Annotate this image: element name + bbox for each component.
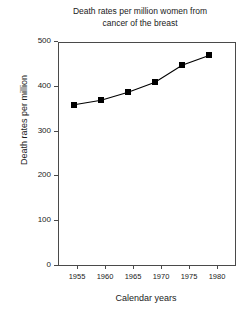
x-axis-label: Calendar years (46, 293, 246, 303)
x-tick-label: 1955 (63, 272, 91, 281)
data-point-1980 (206, 52, 212, 58)
plot-area-frame (58, 42, 236, 266)
x-tick-label: 1975 (175, 272, 203, 281)
y-tick-label: 500 (38, 36, 51, 45)
data-point-1960 (98, 97, 104, 103)
data-point-1955 (71, 102, 77, 108)
y-tick-label: 200 (38, 170, 51, 179)
y-tick-label: 100 (38, 215, 51, 224)
chart-title-line-1: Death rates per million women from (40, 5, 240, 17)
x-tick-mark (189, 266, 190, 269)
x-tick-label: 1960 (91, 272, 119, 281)
data-point-1975 (179, 62, 185, 68)
data-point-1970 (152, 79, 158, 85)
x-tick-label: 1965 (119, 272, 147, 281)
chart-title-line-2: cancer of the breast (40, 17, 240, 29)
x-tick-mark (217, 266, 218, 269)
data-point-1965 (125, 89, 131, 95)
x-tick-mark (133, 266, 134, 269)
x-tick-label: 1970 (147, 272, 175, 281)
y-tick-label: 0 (47, 260, 51, 269)
x-tick-mark (77, 266, 78, 269)
chart-figure: Death rates per million women from cance… (0, 0, 252, 322)
y-tick-label: 300 (38, 126, 51, 135)
x-tick-mark (161, 266, 162, 269)
x-tick-label: 1980 (203, 272, 231, 281)
x-tick-mark (105, 266, 106, 269)
y-axis-label: Death rates per million (19, 40, 29, 200)
chart-title: Death rates per million women from cance… (40, 5, 240, 29)
y-tick-label: 400 (38, 81, 51, 90)
